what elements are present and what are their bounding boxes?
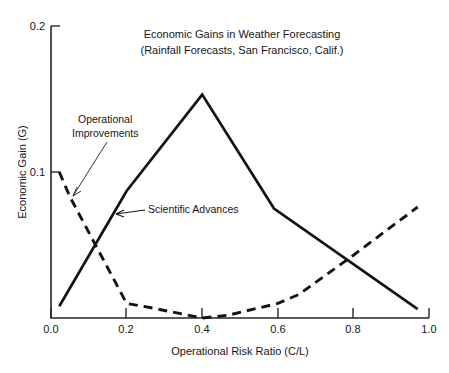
x-tick-label-0.8: 0.8	[345, 323, 360, 335]
chart-figure: 0.2 0.1 0.0 0.2 0.4 0.6 0.8 1.0 Operatio…	[0, 0, 449, 373]
x-tick-label-0.6: 0.6	[270, 323, 285, 335]
annotation-operational-improvements-leader	[73, 142, 107, 196]
axis-frame	[51, 26, 429, 318]
y-axis-title: Economic Gain (G)	[16, 125, 28, 219]
chart-subtitle: (Rainfall Forecasts, San Francisco, Cali…	[141, 44, 344, 56]
x-axis-title: Operational Risk Ratio (C/L)	[171, 345, 309, 357]
series-operational-improvements	[59, 172, 417, 318]
y-tick-label-0.1: 0.1	[30, 166, 45, 178]
x-tick-label-1.0: 1.0	[421, 323, 436, 335]
annotation-scientific-advances-label: Scientific Advances	[148, 203, 238, 215]
y-axis-ticks	[51, 26, 60, 172]
annotation-operational-improvements: Operational Improvements	[72, 113, 139, 196]
annotation-operational-improvements-line2: Improvements	[72, 127, 139, 139]
x-tick-label-0.2: 0.2	[118, 323, 133, 335]
economic-gains-line-chart: 0.2 0.1 0.0 0.2 0.4 0.6 0.8 1.0 Operatio…	[0, 0, 449, 373]
x-tick-label-0.0: 0.0	[43, 323, 58, 335]
chart-title: Economic Gains in Weather Forecasting	[144, 28, 341, 40]
y-tick-label-0.2: 0.2	[30, 20, 45, 32]
annotation-operational-improvements-line1: Operational	[78, 113, 132, 125]
x-tick-label-0.4: 0.4	[194, 323, 209, 335]
annotation-scientific-advances: Scientific Advances	[116, 203, 238, 217]
